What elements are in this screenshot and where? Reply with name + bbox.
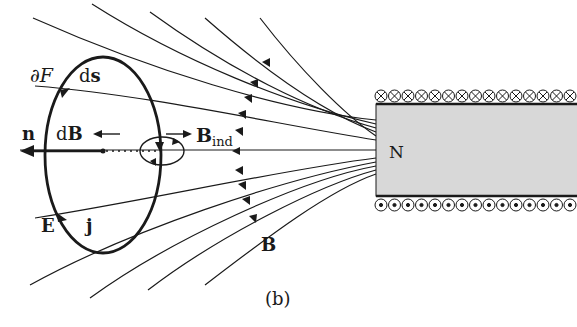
normal-arrow-icon [20, 145, 34, 157]
ds-label: ds [79, 65, 101, 86]
ds-arrow-icon [60, 88, 70, 98]
pole-label: N [389, 142, 404, 162]
normal-label: n [22, 123, 35, 144]
diagram-svg: ∂F ds n dB Bind E j B N (b) [0, 0, 577, 327]
E-label: E [41, 215, 55, 236]
magnet-body [376, 104, 577, 196]
j-arrow-icon [57, 213, 67, 222]
B-label: B [261, 234, 276, 255]
caption: (b) [265, 288, 291, 309]
j-label: j [84, 215, 93, 236]
induced-loop-arrow-icon [150, 158, 156, 166]
Bind-label: Bind [196, 124, 233, 149]
diagram-canvas: ∂F ds n dB Bind E j B N (b) [0, 0, 577, 327]
induced-loop-arrow2-icon [172, 138, 180, 145]
boundary-loop [45, 57, 161, 253]
dB-label: dB [56, 123, 83, 144]
bottom-windings [375, 199, 576, 211]
top-windings [375, 90, 576, 102]
boundary-label: ∂F [30, 64, 54, 86]
